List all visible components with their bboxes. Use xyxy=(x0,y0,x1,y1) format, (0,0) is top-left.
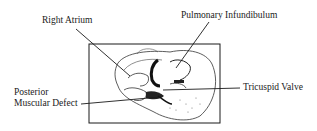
leader-right-atrium xyxy=(76,29,130,76)
label-posterior-line1: Posterior xyxy=(14,87,48,98)
label-tricuspid-valve: Tricuspid Valve xyxy=(243,82,303,93)
label-posterior-line2: Muscular Defect xyxy=(14,98,78,109)
heart-outline xyxy=(115,51,216,120)
leader-posterior-muscular-defect xyxy=(81,97,160,104)
label-pulmonary-infundibulum: Pulmonary Infundibulum xyxy=(181,10,277,21)
leader-pulmonary-infundibulum xyxy=(176,22,209,68)
leader-tricuspid-valve xyxy=(163,88,240,90)
septum-mark xyxy=(151,60,160,86)
label-right-atrium: Right Atrium xyxy=(42,15,92,26)
